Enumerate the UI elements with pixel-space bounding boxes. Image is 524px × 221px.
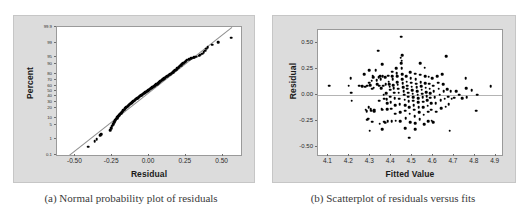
x-tick-label: -0.50 (67, 157, 82, 164)
data-point (401, 73, 404, 76)
y-tick-label: 70 (32, 77, 52, 82)
x-tick-label: 0.00 (142, 157, 155, 164)
data-point (434, 102, 437, 105)
x-tick-label: 4.6 (427, 157, 436, 164)
y-tick-label: 90 (32, 61, 52, 66)
data-point (425, 91, 428, 94)
data-point (445, 55, 448, 58)
data-point (442, 83, 445, 86)
data-point (438, 93, 441, 96)
y-tick-label: 0.50 (292, 39, 313, 45)
data-point (453, 96, 456, 99)
data-point (471, 89, 474, 92)
data-point (387, 120, 390, 123)
data-point (389, 101, 392, 104)
y-tick-label: 30 (32, 98, 52, 103)
plot-area-normal-probability (56, 26, 242, 156)
x-tick-mark (348, 154, 349, 156)
data-point (374, 69, 377, 72)
y-tick-label: 99 (32, 39, 52, 44)
data-point (394, 119, 397, 122)
data-point (418, 111, 421, 114)
data-point (430, 102, 433, 105)
data-point (392, 78, 395, 81)
data-point (404, 109, 407, 112)
data-point (423, 123, 426, 126)
data-point (363, 73, 366, 76)
y-tick-mark (315, 68, 317, 69)
data-point (402, 82, 405, 85)
x-tick-label: -0.25 (104, 157, 119, 164)
x-tick-mark (222, 154, 223, 156)
data-point (405, 80, 408, 83)
data-point (435, 110, 438, 113)
data-point (422, 101, 425, 104)
data-point (455, 90, 458, 93)
data-point (427, 110, 430, 113)
data-point (420, 89, 423, 92)
data-point (401, 78, 404, 81)
data-point (465, 87, 468, 90)
data-point (412, 96, 415, 99)
data-point (417, 101, 420, 104)
data-point (430, 108, 433, 111)
data-point (423, 66, 426, 69)
x-tick-mark (390, 154, 391, 156)
x-tick-mark (369, 154, 370, 156)
data-point (429, 96, 432, 99)
data-point (393, 91, 396, 94)
data-point (489, 85, 492, 88)
x-tick-label: 4.9 (490, 157, 499, 164)
x-tick-mark (495, 154, 496, 156)
zero-reference-line (318, 95, 502, 96)
data-point (87, 146, 90, 149)
data-point (402, 90, 405, 93)
y-tick-mark (54, 56, 56, 57)
data-point (428, 88, 431, 91)
data-point (446, 88, 449, 91)
x-tick-label: 4.1 (323, 157, 332, 164)
data-point (371, 120, 374, 123)
y-tick-mark (54, 42, 56, 43)
y-tick-mark (315, 94, 317, 95)
data-point (405, 117, 408, 120)
data-point (381, 108, 384, 111)
data-point (372, 87, 375, 90)
x-axis-title-residual: Residual (56, 169, 242, 179)
y-tick-mark (54, 138, 56, 139)
y-tick-label: -0.50 (292, 143, 313, 149)
data-point (458, 93, 461, 96)
y-tick-mark (315, 42, 317, 43)
data-point (404, 104, 407, 107)
subfigure-b: Residual Fitted Value 4.14.24.34.44.54.6… (262, 0, 524, 221)
y-tick-label: 60 (32, 82, 52, 87)
data-point (368, 69, 371, 72)
y-tick-mark (315, 146, 317, 147)
y-tick-label: 99.9 (32, 24, 52, 29)
data-point (413, 108, 416, 111)
data-point (400, 59, 403, 62)
data-point (412, 104, 415, 107)
data-point (351, 100, 354, 103)
y-tick-mark (54, 101, 56, 102)
data-point (381, 128, 384, 131)
data-point (420, 85, 423, 88)
y-tick-label: -0.25 (292, 117, 313, 123)
data-point (369, 84, 372, 87)
y-tick-mark (54, 79, 56, 80)
data-point (423, 114, 426, 117)
data-point (408, 113, 411, 116)
data-point (424, 82, 427, 85)
y-tick-mark (54, 117, 56, 118)
figure-two-panel: Percent Residual -0.50-0.250.000.250.509… (0, 0, 524, 221)
data-point (387, 75, 390, 78)
x-tick-mark (453, 154, 454, 156)
data-point (411, 92, 414, 95)
data-point (424, 75, 427, 78)
x-tick-mark (74, 154, 75, 156)
data-point (427, 120, 430, 123)
data-point (425, 87, 428, 90)
data-point (347, 84, 350, 87)
data-point (443, 90, 446, 93)
x-tick-mark (185, 154, 186, 156)
